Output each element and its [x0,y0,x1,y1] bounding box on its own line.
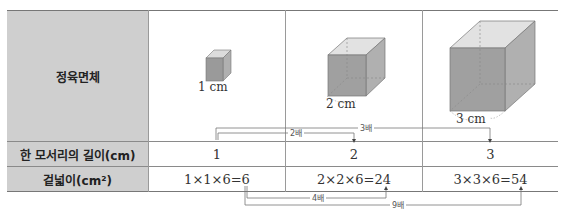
arrow-down-icon [488,139,492,143]
figure-overlay [0,0,563,209]
arrow-down-icon [352,139,356,143]
edge-2x-label: 2배 [288,129,304,138]
arrow-up-icon [519,186,523,190]
cube-3cm-label: 3 cm [456,112,486,126]
edge-ratio-brackets [216,128,490,140]
arrow-up-icon [384,186,388,190]
cube-1cm-label: 1 cm [198,80,228,94]
cube-3cm-icon [450,21,535,120]
cube-2cm-label: 2 cm [326,97,356,111]
edge-3x-label: 3배 [358,124,374,133]
cube-1cm-icon [206,50,231,81]
area-9x-label: 9배 [390,201,406,209]
area-4x-label: 4배 [310,194,326,203]
area-ratio-brackets [245,186,521,205]
cube-2cm-icon [327,38,385,103]
